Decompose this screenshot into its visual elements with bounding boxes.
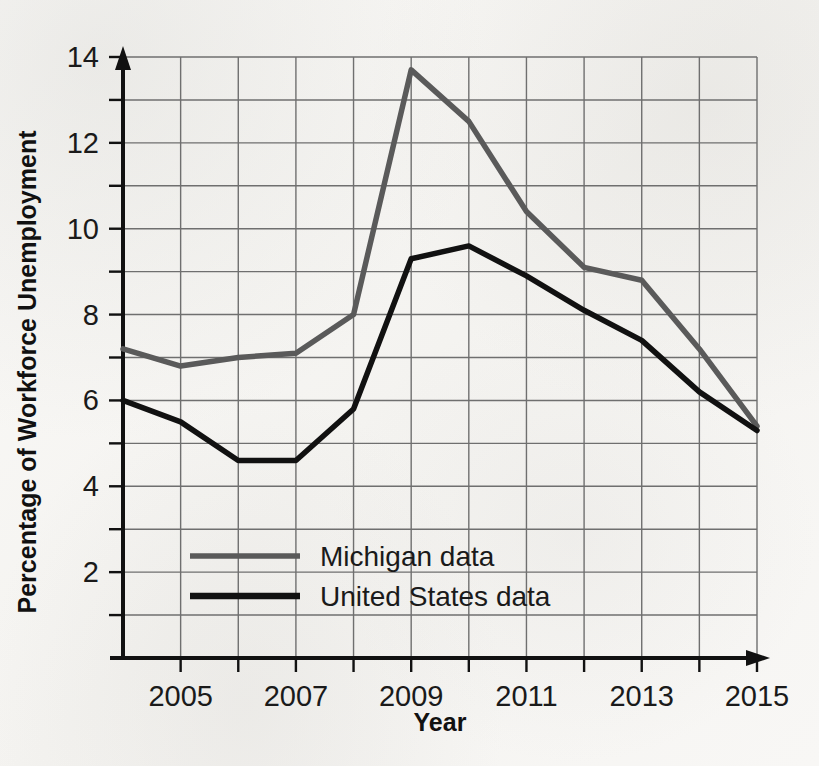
y-axis-tick-labels: 2468101214 (67, 41, 99, 588)
legend-label: United States data (320, 581, 551, 612)
x-axis-tick-label: 2013 (609, 680, 674, 712)
x-axis-tick-label: 2011 (495, 680, 557, 712)
legend-label: Michigan data (320, 541, 495, 572)
horizontal-gridlines (123, 57, 757, 615)
y-axis-tick-label: 6 (83, 384, 99, 416)
series-line (123, 70, 757, 426)
x-axis-tick-label: 2015 (725, 680, 790, 712)
x-axis-title: Year (414, 708, 467, 736)
x-axis-tick-label: 2007 (264, 680, 329, 712)
y-axis-tick-label: 8 (83, 299, 99, 331)
y-axis-ticks (109, 57, 123, 615)
y-axis-tick-label: 10 (67, 213, 99, 245)
y-axis-title: Percentage of Workforce Unemployment (13, 130, 41, 614)
y-axis-tick-label: 14 (67, 41, 99, 73)
chart-page: 2468101214 200520072009201120132015 Mich… (0, 0, 819, 766)
x-axis-ticks (181, 658, 757, 672)
y-axis-tick-label: 12 (67, 127, 99, 159)
series-line (123, 246, 757, 461)
y-axis-tick-label: 2 (83, 556, 99, 588)
unemployment-line-chart: 2468101214 200520072009201120132015 Mich… (0, 0, 819, 766)
y-axis-tick-label: 4 (83, 470, 99, 502)
chart-legend: Michigan dataUnited States data (190, 541, 551, 612)
axes (110, 46, 770, 666)
x-axis-tick-labels: 200520072009201120132015 (148, 680, 789, 712)
data-series-group (123, 70, 757, 461)
x-axis-tick-label: 2005 (148, 680, 213, 712)
